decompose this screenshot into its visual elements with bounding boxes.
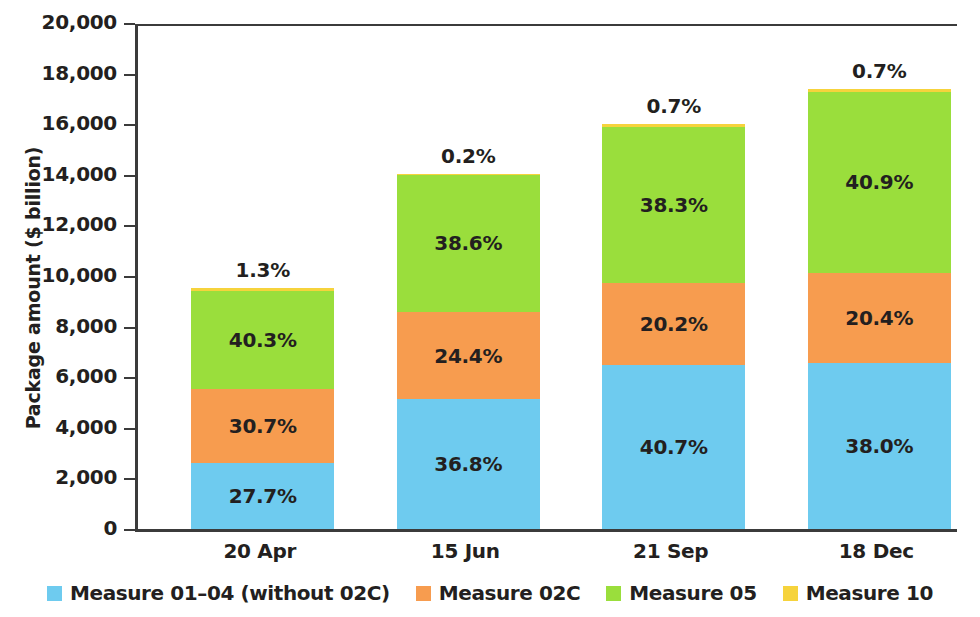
bar-segment[interactable]: 30.7% [191, 389, 334, 463]
bar-top-label: 1.3% [191, 258, 334, 282]
bar-top-label: 0.7% [602, 94, 745, 118]
y-axis-tick-mark [124, 428, 135, 430]
bar-segment[interactable]: 38.3% [602, 127, 745, 283]
bar-segment[interactable]: 24.4% [397, 312, 540, 399]
bar-group[interactable]: 38.0%20.4%40.9%0.7% [808, 24, 951, 530]
y-axis-tick-mark [124, 478, 135, 480]
bar-segment[interactable]: 40.9% [808, 92, 951, 272]
stacked-bar-chart: Package amount ($ billion) 02,0004,0006,… [0, 0, 980, 617]
x-axis-label: 20 Apr [188, 539, 331, 563]
chart-legend: Measure 01–04 (without 02C)Measure 02CMe… [0, 581, 980, 605]
y-axis-tick-label: 20,000 [42, 10, 117, 34]
legend-label: Measure 05 [629, 581, 756, 605]
bar-segment[interactable] [191, 288, 334, 291]
y-axis-tick-label: 14,000 [42, 162, 117, 186]
legend-item[interactable]: Measure 01–04 (without 02C) [47, 581, 390, 605]
y-axis-tick-mark [124, 377, 135, 379]
bar-segment-label: 40.7% [640, 435, 708, 459]
legend-label: Measure 01–04 (without 02C) [70, 581, 390, 605]
legend-swatch-icon [47, 586, 62, 601]
legend-item[interactable]: Measure 05 [606, 581, 756, 605]
bar-segment-label: 24.4% [434, 344, 502, 368]
bar-segment-label: 20.2% [640, 312, 708, 336]
legend-label: Measure 02C [439, 581, 581, 605]
bar-group[interactable]: 40.7%20.2%38.3%0.7% [602, 24, 745, 530]
bar-segment-label: 20.4% [845, 306, 913, 330]
y-axis-tick-label: 18,000 [42, 61, 117, 85]
y-axis-tick-mark [124, 23, 135, 25]
bar-group[interactable]: 36.8%24.4%38.6%0.2% [397, 24, 540, 530]
bar-top-label: 0.2% [397, 144, 540, 168]
stacked-bar[interactable]: 40.7%20.2%38.3% [602, 124, 745, 530]
bar-segment[interactable]: 27.7% [191, 463, 334, 530]
bar-segment[interactable]: 38.0% [808, 363, 951, 530]
bar-segment[interactable]: 20.4% [808, 273, 951, 363]
bar-segment[interactable] [808, 89, 951, 92]
y-axis-tick-mark [124, 225, 135, 227]
bar-segment[interactable]: 40.3% [191, 291, 334, 388]
bar-segment-label: 30.7% [229, 414, 297, 438]
stacked-bar[interactable]: 38.0%20.4%40.9% [808, 89, 951, 530]
y-axis-tick-mark [124, 124, 135, 126]
y-axis-tick-label: 16,000 [42, 111, 117, 135]
bar-segment[interactable] [602, 124, 745, 127]
x-axis-line [135, 529, 957, 532]
bar-segment-label: 40.3% [229, 328, 297, 352]
y-axis-tick-label: 6,000 [55, 364, 117, 388]
y-axis-tick-label: 10,000 [42, 263, 117, 287]
y-axis-tick-label: 2,000 [55, 465, 117, 489]
y-axis-tick-label: 4,000 [55, 415, 117, 439]
legend-item[interactable]: Measure 02C [416, 581, 581, 605]
legend-label: Measure 10 [806, 581, 933, 605]
bar-segment[interactable]: 20.2% [602, 283, 745, 365]
bar-segment-label: 38.3% [640, 193, 708, 217]
bar-segment[interactable]: 36.8% [397, 399, 540, 530]
bar-segment[interactable]: 38.6% [397, 175, 540, 312]
stacked-bar[interactable]: 27.7%30.7%40.3% [191, 288, 334, 530]
legend-swatch-icon [783, 586, 798, 601]
x-axis-label: 21 Sep [599, 539, 742, 563]
y-axis-tick-mark [124, 327, 135, 329]
plot-area: 27.7%30.7%40.3%1.3%36.8%24.4%38.6%0.2%40… [135, 24, 957, 530]
y-axis-tick-mark [124, 276, 135, 278]
y-axis-tick-label: 0 [103, 516, 117, 540]
y-axis-tick-mark [124, 529, 135, 531]
y-axis-tick-mark [124, 175, 135, 177]
stacked-bar[interactable]: 36.8%24.4%38.6% [397, 174, 540, 530]
bar-segment[interactable] [397, 174, 540, 175]
y-axis-tick-mark [124, 74, 135, 76]
bar-segment-label: 40.9% [845, 170, 913, 194]
bar-group[interactable]: 27.7%30.7%40.3%1.3% [191, 24, 334, 530]
bar-top-label: 0.7% [808, 59, 951, 83]
legend-swatch-icon [606, 586, 621, 601]
y-axis-tick-label: 8,000 [55, 314, 117, 338]
x-axis-label: 18 Dec [805, 539, 948, 563]
x-axis-label: 15 Jun [394, 539, 537, 563]
bar-segment-label: 38.6% [434, 231, 502, 255]
y-axis-tick-label: 12,000 [42, 212, 117, 236]
legend-item[interactable]: Measure 10 [783, 581, 933, 605]
bar-segment-label: 27.7% [229, 484, 297, 508]
legend-swatch-icon [416, 586, 431, 601]
bar-segment[interactable]: 40.7% [602, 365, 745, 530]
bar-segment-label: 38.0% [845, 434, 913, 458]
bar-segment-label: 36.8% [434, 452, 502, 476]
